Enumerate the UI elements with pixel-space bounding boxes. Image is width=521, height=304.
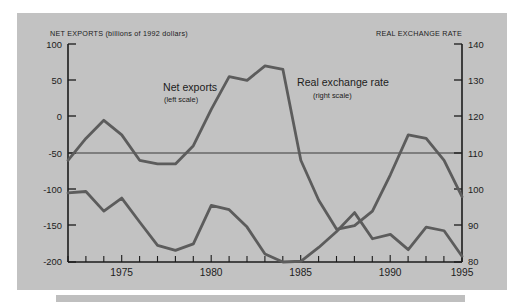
x-tick-label-1990: 1990 <box>379 267 402 278</box>
right-axis-ticks <box>454 44 462 262</box>
left-tick-label-50: 50 <box>52 75 62 86</box>
left-tick-label-100: 100 <box>46 39 62 50</box>
right-tick-label-90: 90 <box>468 220 478 231</box>
x-tick-label-1975: 1975 <box>110 267 133 278</box>
right-tick-label-80: 80 <box>468 256 478 267</box>
x-tick-label-1985: 1985 <box>289 267 312 278</box>
left-tick-label-neg50: -50 <box>48 148 62 159</box>
x-axis-ticks <box>68 255 462 262</box>
right-tick-label-100: 100 <box>468 184 484 195</box>
right-tick-label-140: 140 <box>468 39 484 50</box>
footer-separator-bar <box>56 295 465 302</box>
left-tick-label-neg100: -100 <box>43 184 62 195</box>
right-tick-label-130: 130 <box>468 75 484 86</box>
figure-root: NET EXPORTS (billions of 1992 dollars) R… <box>0 0 521 304</box>
right-axis-header: REAL EXCHANGE RATE <box>376 29 462 38</box>
left-tick-label-0: 0 <box>57 111 62 122</box>
right-tick-label-110: 110 <box>468 148 483 159</box>
chart-panel: NET EXPORTS (billions of 1992 dollars) R… <box>17 13 507 290</box>
x-tick-label-1980: 1980 <box>200 267 223 278</box>
chart-plot-area: NET EXPORTS (billions of 1992 dollars) R… <box>17 13 507 290</box>
left-tick-label-neg150: -150 <box>43 220 62 231</box>
series-line-net-exports <box>68 192 462 262</box>
x-tick-label-1995: 1995 <box>451 267 474 278</box>
annotation-real-rate-sub: (right scale) <box>313 91 352 100</box>
annotation-net-exports-label: Net exports <box>163 81 217 93</box>
right-tick-label-120: 120 <box>468 111 484 122</box>
annotation-net-exports-sub: (left scale) <box>164 95 198 104</box>
annotation-real-rate-label: Real exchange rate <box>297 76 389 88</box>
left-tick-label-neg200: -200 <box>43 256 62 267</box>
left-axis-header: NET EXPORTS (billions of 1992 dollars) <box>50 29 188 38</box>
